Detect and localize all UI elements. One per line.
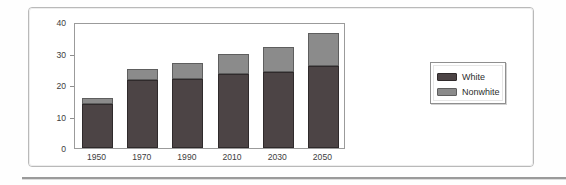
bar-segment-white (308, 66, 339, 148)
x-tick-label: 2010 (223, 152, 242, 162)
legend-label-white: White (462, 72, 485, 82)
bar-segment-nonwhite (82, 98, 113, 104)
bar-group (172, 63, 203, 148)
plot-area (74, 23, 345, 149)
bar-group (82, 98, 113, 148)
bar-segment-white (218, 74, 249, 148)
bars-container (75, 24, 344, 148)
legend-swatch-nonwhite-icon (437, 88, 457, 96)
y-tick-label: 10 (44, 113, 66, 123)
footer-rule-shadow (22, 179, 566, 180)
x-tick-label: 1990 (177, 152, 196, 162)
bar-group (218, 54, 249, 149)
bar-group (127, 69, 158, 148)
bar-segment-white (263, 72, 294, 148)
y-tick-label: 20 (44, 81, 66, 91)
bar-segment-white (82, 104, 113, 148)
bar-segment-nonwhite (127, 69, 158, 80)
chart-legend: White Nonwhite (430, 62, 506, 104)
bar-group (263, 47, 294, 148)
bar-segment-white (127, 80, 158, 148)
x-tick-label: 2050 (313, 152, 332, 162)
legend-item-nonwhite: Nonwhite (437, 86, 500, 98)
bar-group (308, 33, 339, 148)
legend-item-white: White (437, 71, 485, 83)
legend-swatch-white-icon (437, 73, 457, 81)
x-tick-label: 1970 (132, 152, 151, 162)
x-tick-label: 2030 (268, 152, 287, 162)
bar-segment-nonwhite (172, 63, 203, 79)
y-tick-label: 0 (44, 144, 66, 154)
bar-segment-nonwhite (263, 47, 294, 72)
legend-label-nonwhite: Nonwhite (462, 87, 500, 97)
y-tick-label: 30 (44, 50, 66, 60)
bar-segment-white (172, 79, 203, 148)
bar-segment-nonwhite (308, 33, 339, 66)
bar-segment-nonwhite (218, 54, 249, 74)
x-tick-label: 1950 (87, 152, 106, 162)
chart-screenshot: Age 18-24Pop. (in millions) 010203040 19… (0, 0, 566, 185)
y-tick-label: 40 (44, 18, 66, 28)
